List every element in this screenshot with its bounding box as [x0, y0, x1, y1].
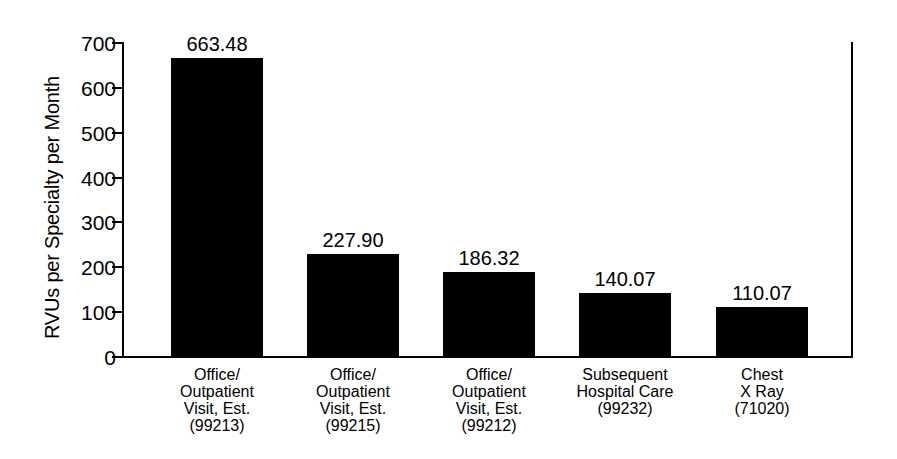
- bar-chart: RVUs per Specialty per Month 01002003004…: [0, 0, 897, 459]
- x-axis-line: [122, 356, 853, 358]
- x-category-label: Office/ Outpatient Visit, Est. (99213): [142, 366, 292, 434]
- bar: 110.07: [716, 307, 808, 356]
- bar-value-label: 140.07: [594, 269, 655, 289]
- x-category-label: Subsequent Hospital Care (99232): [550, 366, 700, 417]
- bar: 140.07: [579, 293, 671, 356]
- y-tick-label: 600: [81, 77, 116, 98]
- y-tick-label: 400: [81, 167, 116, 188]
- y-tick-label: 300: [81, 212, 116, 233]
- y-tick-label: 200: [81, 257, 116, 278]
- bar-value-label: 110.07: [732, 283, 792, 303]
- bar-value-label: 227.90: [322, 230, 383, 250]
- y-tick-label: 700: [81, 33, 116, 54]
- y-tick-label: 0: [104, 347, 116, 368]
- y-axis-line: [122, 42, 124, 358]
- bar-value-label: 186.32: [458, 248, 519, 268]
- y-tick-label: 500: [81, 122, 116, 143]
- x-category-label: Office/ Outpatient Visit, Est. (99212): [414, 366, 564, 434]
- plot-area: 0100200300400500600700 663.48227.90186.3…: [122, 42, 853, 358]
- right-spine: [851, 42, 853, 358]
- x-category-label: Office/ Outpatient Visit, Est. (99215): [278, 366, 428, 434]
- bar-value-label: 663.48: [186, 34, 247, 54]
- y-tick-label: 100: [81, 302, 116, 323]
- bar: 663.48: [171, 58, 263, 356]
- y-axis-title: RVUs per Specialty per Month: [41, 48, 64, 368]
- x-category-label: Chest X Ray (71020): [687, 366, 837, 417]
- bar: 186.32: [443, 272, 535, 356]
- bar: 227.90: [307, 254, 399, 356]
